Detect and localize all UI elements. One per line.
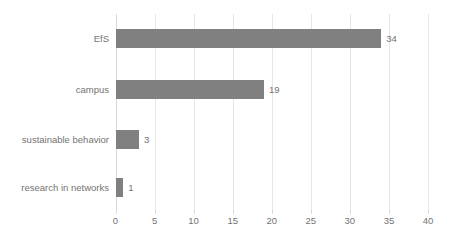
bar-row: 1 <box>116 178 429 197</box>
category-axis: EfS campus sustainable behavior research… <box>0 14 109 210</box>
bar-value-label: 19 <box>269 85 280 95</box>
x-tick-label: 40 <box>423 216 434 226</box>
x-tick-label: 35 <box>384 216 395 226</box>
category-label-sustainable-behavior: sustainable behavior <box>22 130 109 149</box>
bar-sustainable-behavior[interactable] <box>116 130 139 149</box>
x-tick-mark <box>194 210 195 214</box>
x-tick-label: 5 <box>152 216 157 226</box>
x-tick-label: 20 <box>266 216 277 226</box>
bar-value-label: 34 <box>386 34 397 44</box>
category-label-campus: campus <box>76 80 109 99</box>
x-axis: 0 5 10 15 20 25 30 35 40 <box>116 210 429 232</box>
bar-chart: 34 19 3 1 EfS campus sustainable behavio… <box>0 0 463 243</box>
bar-value-label: 1 <box>128 183 133 193</box>
x-tick-label: 15 <box>227 216 238 226</box>
bar-value-label: 3 <box>144 135 149 145</box>
x-tick-mark <box>311 210 312 214</box>
bar-campus[interactable] <box>116 80 264 99</box>
category-label-efs: EfS <box>94 29 109 48</box>
category-label-research-in-networks: research in networks <box>21 178 109 197</box>
x-tick-mark <box>272 210 273 214</box>
bar-row: 19 <box>116 80 429 99</box>
bar-research-in-networks[interactable] <box>116 178 124 197</box>
x-tick-mark <box>116 210 117 214</box>
bar-row: 3 <box>116 130 429 149</box>
x-tick-mark <box>233 210 234 214</box>
gridline-40 <box>428 14 429 210</box>
x-tick-mark <box>350 210 351 214</box>
x-tick-mark <box>155 210 156 214</box>
bar-efs[interactable] <box>116 29 382 48</box>
x-tick-label: 10 <box>188 216 199 226</box>
plot-area: 34 19 3 1 <box>116 14 429 210</box>
x-tick-label: 30 <box>345 216 356 226</box>
x-tick-label: 25 <box>306 216 317 226</box>
bar-row: 34 <box>116 29 429 48</box>
x-tick-mark <box>428 210 429 214</box>
x-tick-label: 0 <box>113 216 118 226</box>
x-tick-mark <box>389 210 390 214</box>
